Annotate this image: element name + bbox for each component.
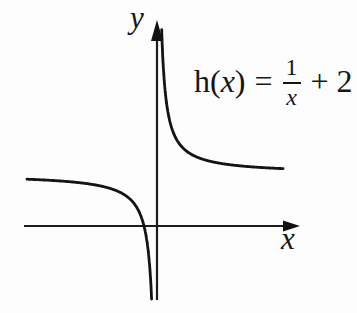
curve-left-branch xyxy=(27,179,152,299)
equation-plus-two: + 2 xyxy=(311,64,353,99)
fraction-numerator: 1 xyxy=(283,55,301,84)
function-equation: h( x ) = 1 x + 2 xyxy=(194,54,353,110)
y-axis-label: y xyxy=(130,1,144,35)
equation-close-paren: ) xyxy=(235,64,246,99)
equation-equals-sign: = xyxy=(255,64,273,99)
equation-h-open: h( xyxy=(194,64,221,99)
x-axis-label: x xyxy=(281,222,295,256)
graph-canvas xyxy=(0,0,357,313)
function-graph-figure: y x h( x ) = 1 x + 2 xyxy=(0,0,357,313)
fraction-denominator: x xyxy=(286,84,297,111)
equation-fraction: 1 x xyxy=(283,55,301,111)
equation-x-variable: x xyxy=(221,64,235,99)
